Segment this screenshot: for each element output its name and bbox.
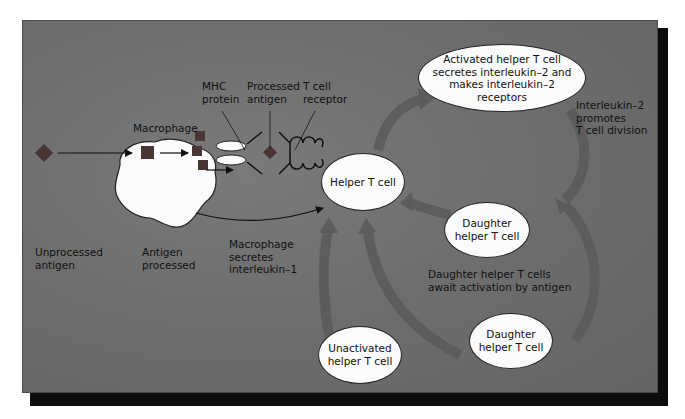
unprocessed-antigen-label: Unprocessed antigen (35, 246, 103, 271)
helper-t-cell: Helper T cell (321, 153, 405, 211)
mhc-protein-icon (216, 141, 246, 151)
t-cell-receptor-icon (290, 137, 323, 169)
daughter-helper-t-cell-lower: Daughter helper T cell (469, 313, 553, 369)
unactivated-helper-t-cell: Unactivated helper T cell (318, 326, 402, 384)
mhc-protein-icon (216, 155, 246, 165)
daughters-await-label: Daughter helper T cells await activation… (428, 268, 571, 293)
antigen-fragment-icon (192, 146, 202, 156)
unprocessed-antigen-icon (36, 145, 53, 162)
activated-helper-t-cell: Activated helper T cell secretes interle… (418, 44, 586, 112)
antigen-fragment-icon (198, 160, 208, 170)
t-cell-receptor-label: T cell receptor (303, 80, 347, 105)
processed-antigen-label: Processed antigen (247, 80, 300, 105)
daughter-helper-t-cell-upper: Daughter helper T cell (444, 202, 530, 258)
antigen-processed-label: Antigen processed (142, 246, 195, 271)
antigen-fragment-icon (141, 146, 154, 159)
diagram-stage: Macrophage MHC protein Processed antigen… (0, 0, 685, 419)
interleukin2-promotes-label: Interleukin–2 promotes T cell division (576, 99, 647, 137)
macrophage-secretes-label: Macrophage secretes interleukin–1 (229, 238, 297, 276)
macrophage-label: Macrophage (133, 122, 198, 135)
mhc-protein-label: MHC protein (202, 80, 239, 105)
